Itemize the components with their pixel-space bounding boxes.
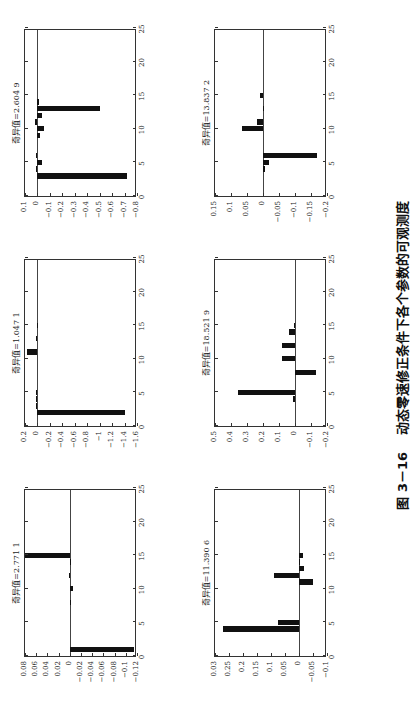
x-tick-mark: [215, 521, 218, 522]
y-tick-label: −1.6: [132, 431, 140, 461]
x-tick-mark: [215, 621, 218, 622]
x-tick-label: 10: [328, 582, 336, 598]
x-tick-label: 5: [328, 615, 336, 631]
bar: [223, 626, 299, 631]
y-tick-label: 0.15: [252, 661, 260, 691]
y-tick-label: −0.4: [57, 431, 65, 461]
y-tick-mark: [257, 653, 258, 656]
bar: [295, 370, 316, 375]
bar: [299, 566, 304, 571]
bar: [260, 93, 263, 98]
y-tick-label: −0.6: [70, 431, 78, 461]
y-tick-label: 0.08: [20, 661, 28, 691]
y-tick-label: −0.2: [322, 201, 330, 231]
x-tick-label: 20: [328, 515, 336, 531]
y-tick-mark: [231, 193, 232, 196]
y-tick-label: 0.1: [274, 431, 282, 461]
y-tick-label: 0: [32, 431, 40, 461]
y-tick-label: 0.5: [210, 431, 218, 461]
y-tick-label: −0.2: [57, 201, 65, 231]
x-tick-label: 15: [138, 548, 146, 564]
bar: [37, 173, 127, 178]
x-tick-mark: [133, 655, 136, 656]
caption-text: 动态零速修正条件下各个参数的可观测度: [395, 201, 410, 435]
zero-line: [70, 490, 71, 656]
y-tick-mark: [229, 653, 230, 656]
bar: [36, 390, 37, 395]
y-tick-mark: [311, 423, 312, 426]
x-tick-label: 20: [138, 55, 146, 71]
bar: [299, 559, 300, 564]
y-tick-label: 0.3: [242, 431, 250, 461]
y-tick-mark: [36, 653, 37, 656]
y-tick-mark: [50, 193, 51, 196]
bar: [37, 160, 41, 165]
y-tick-mark: [263, 423, 264, 426]
x-tick-mark: [215, 425, 218, 426]
zero-line: [37, 260, 38, 426]
y-tick-label: −0.1: [121, 661, 129, 691]
y-tick-label: −0.06: [98, 661, 106, 691]
x-tick-label: 20: [328, 55, 336, 71]
y-tick-mark: [243, 653, 244, 656]
x-tick-label: 25: [328, 21, 336, 37]
bar: [37, 133, 39, 138]
x-tick-mark: [323, 324, 326, 325]
x-tick-mark: [323, 554, 326, 555]
bar: [293, 396, 295, 401]
bar: [69, 573, 70, 578]
bar: [25, 553, 70, 558]
x-tick-label: 10: [138, 582, 146, 598]
y-tick-mark: [285, 653, 286, 656]
x-tick-mark: [323, 161, 326, 162]
y-tick-label: 0.1: [20, 201, 28, 231]
bar: [70, 559, 71, 564]
chart-title: 奇异值=2.771 1: [10, 489, 21, 657]
y-tick-mark: [81, 653, 82, 656]
x-tick-mark: [215, 588, 218, 589]
x-tick-mark: [323, 487, 326, 488]
x-tick-label: 25: [328, 481, 336, 497]
y-tick-label: −0.6: [107, 201, 115, 231]
x-tick-mark: [25, 621, 28, 622]
y-tick-label: 0.05: [280, 661, 288, 691]
bar-chart-panel: 奇异值=11.390 60.030.250.20.150.10.050−0.05…: [200, 481, 350, 691]
x-tick-mark: [133, 94, 136, 95]
x-tick-mark: [215, 554, 218, 555]
y-tick-mark: [125, 193, 126, 196]
bar: [37, 410, 124, 415]
y-tick-label: 0: [65, 661, 73, 691]
x-tick-mark: [215, 291, 218, 292]
y-tick-label: 0.05: [242, 201, 250, 231]
y-tick-mark: [59, 653, 60, 656]
y-tick-mark: [75, 423, 76, 426]
x-tick-mark: [133, 521, 136, 522]
x-tick-mark: [323, 358, 326, 359]
bar-chart-panel: 奇异值=2.604 90.10−0.1−0.2−0.3−0.4−0.5−0.6−…: [10, 21, 160, 231]
y-tick-mark: [313, 653, 314, 656]
y-tick-mark: [87, 423, 88, 426]
x-tick-label: 5: [138, 155, 146, 171]
x-tick-mark: [323, 195, 326, 196]
y-tick-mark: [279, 423, 280, 426]
x-tick-mark: [133, 588, 136, 589]
caption-number: 图 3－16: [395, 452, 410, 510]
bar: [299, 553, 303, 558]
x-tick-label: 0: [328, 419, 336, 435]
x-tick-label: 0: [328, 189, 336, 205]
x-tick-mark: [215, 487, 218, 488]
y-tick-label: −1.2: [107, 431, 115, 461]
y-tick-label: −0.2: [45, 431, 53, 461]
x-tick-mark: [133, 257, 136, 258]
x-tick-mark: [133, 324, 136, 325]
y-tick-label: −0.1: [290, 201, 298, 231]
bar: [299, 579, 313, 584]
x-tick-mark: [323, 27, 326, 28]
x-tick-mark: [25, 161, 28, 162]
bar-chart-panel: 奇异值=18.521 90.50.40.30.20.10−0.1−0.20510…: [200, 251, 350, 461]
x-tick-label: 15: [328, 548, 336, 564]
y-tick-mark: [37, 193, 38, 196]
y-tick-label: −0.04: [87, 661, 95, 691]
x-tick-mark: [25, 257, 28, 258]
x-tick-mark: [25, 195, 28, 196]
